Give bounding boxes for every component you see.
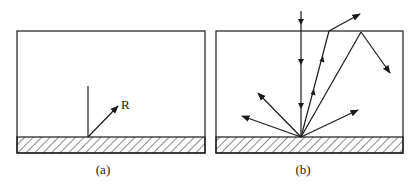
scatter-ray-left-upper — [258, 93, 301, 137]
panel-b-frame — [216, 31, 403, 153]
panel-a-caption: (a) — [96, 162, 110, 177]
panel-b-caption: (b) — [295, 162, 310, 177]
incident-vertical-ray — [298, 11, 304, 137]
scatter-ray-right — [301, 110, 358, 137]
arrowhead-down-icon — [298, 59, 304, 65]
panel-a-vector-R — [88, 106, 118, 137]
refracted-ray — [301, 14, 360, 137]
scatter-ray-left-lower — [242, 116, 301, 137]
panel-b-ground-hatch — [216, 137, 403, 153]
panel-a: R (a) — [17, 31, 205, 177]
arrowhead-down-icon — [298, 103, 304, 109]
panel-b: (b) — [216, 11, 403, 177]
panel-a-label-R: R — [121, 97, 130, 112]
panel-a-frame — [17, 31, 205, 153]
panel-a-ground-hatch — [17, 137, 205, 153]
arrowhead-down-icon — [298, 19, 304, 25]
diagram-canvas: R (a) (b) — [0, 0, 420, 188]
